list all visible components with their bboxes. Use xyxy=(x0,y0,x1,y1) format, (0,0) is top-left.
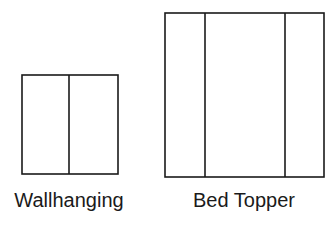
wallhanging-label: Wallhanging xyxy=(14,189,123,211)
bed-topper-outline xyxy=(165,13,324,177)
wallhanging-outline xyxy=(22,75,118,174)
wallhanging-panel: Wallhanging xyxy=(14,75,123,211)
quilt-layout-diagram: Wallhanging Bed Topper xyxy=(0,0,334,228)
bed-topper-panel: Bed Topper xyxy=(165,13,324,211)
bed-topper-label: Bed Topper xyxy=(193,189,295,211)
